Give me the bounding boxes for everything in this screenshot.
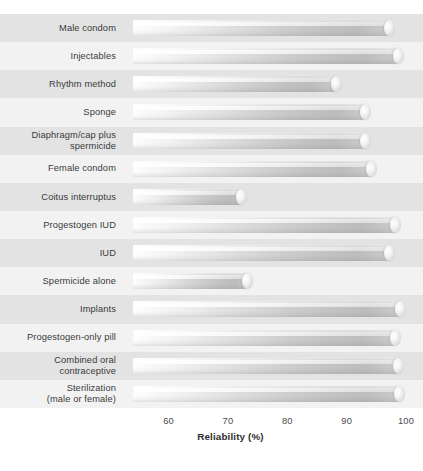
chart-row: Spermicide alone bbox=[0, 267, 423, 295]
bar-track bbox=[133, 42, 423, 70]
chart-row: Sponge bbox=[0, 98, 423, 126]
row-label: Sponge bbox=[0, 107, 125, 118]
row-label: Progestogen IUD bbox=[0, 220, 125, 231]
row-label: Spermicide alone bbox=[0, 276, 125, 287]
chart-row: Diaphragm/cap plus spermicide bbox=[0, 127, 423, 155]
row-label: Implants bbox=[0, 304, 125, 315]
bar bbox=[133, 245, 394, 261]
bar-track bbox=[133, 324, 423, 352]
bar-track bbox=[133, 380, 423, 408]
row-label: Progestogen-only pill bbox=[0, 332, 125, 343]
row-label: Combined oral contraceptive bbox=[0, 355, 125, 376]
bar bbox=[133, 301, 405, 317]
bar-track bbox=[133, 295, 423, 323]
bar bbox=[133, 161, 376, 177]
x-tick-label-90: 90 bbox=[341, 416, 352, 426]
chart-row: Male condom bbox=[0, 14, 423, 42]
row-label: IUD bbox=[0, 248, 125, 259]
bar-track bbox=[133, 155, 423, 183]
chart-row: IUD bbox=[0, 239, 423, 267]
bar bbox=[133, 189, 246, 205]
x-tick-label-70: 70 bbox=[223, 416, 234, 426]
x-axis-title-text: Reliability (%) bbox=[197, 431, 264, 442]
row-label: Diaphragm/cap plus spermicide bbox=[0, 130, 125, 151]
chart-row: Progestogen IUD bbox=[0, 211, 423, 239]
row-label: Rhythm method bbox=[0, 79, 125, 90]
bar-track bbox=[133, 98, 423, 126]
bar bbox=[133, 76, 341, 92]
x-tick-label-100: 100 bbox=[398, 416, 414, 426]
bar-track bbox=[133, 183, 423, 211]
bar-track bbox=[133, 239, 423, 267]
bar-track bbox=[133, 70, 423, 98]
chart-row: Implants bbox=[0, 295, 423, 323]
bar bbox=[133, 48, 403, 64]
row-label: Coitus interruptus bbox=[0, 192, 125, 203]
chart-row: Female condom bbox=[0, 155, 423, 183]
bar-track bbox=[133, 14, 423, 42]
bar bbox=[133, 133, 370, 149]
bar bbox=[133, 20, 394, 36]
bar-track bbox=[133, 352, 423, 380]
bar bbox=[133, 330, 400, 346]
row-label: Sterilization (male or female) bbox=[0, 383, 125, 404]
bar-track bbox=[133, 211, 423, 239]
x-tick-label-80: 80 bbox=[282, 416, 293, 426]
chart-row: Progestogen-only pill bbox=[0, 324, 423, 352]
x-axis-title: Reliability (%) bbox=[0, 431, 423, 442]
row-label: Male condom bbox=[0, 23, 125, 34]
bar-track bbox=[133, 267, 423, 295]
row-label: Injectables bbox=[0, 51, 125, 62]
bar bbox=[133, 104, 370, 120]
bar bbox=[133, 273, 252, 289]
chart-row: Injectables bbox=[0, 42, 423, 70]
bar bbox=[133, 358, 403, 374]
chart-row: Combined oral contraceptive bbox=[0, 352, 423, 380]
bar-track bbox=[133, 127, 423, 155]
chart-row: Rhythm method bbox=[0, 70, 423, 98]
chart-row: Coitus interruptus bbox=[0, 183, 423, 211]
chart-row: Sterilization (male or female) bbox=[0, 380, 423, 408]
chart-rows: Male condomInjectablesRhythm methodSpong… bbox=[0, 14, 423, 408]
bar bbox=[133, 386, 404, 402]
bar bbox=[133, 217, 400, 233]
row-label: Female condom bbox=[0, 163, 125, 174]
x-tick-label-60: 60 bbox=[163, 416, 174, 426]
reliability-bar-chart: Male condomInjectablesRhythm methodSpong… bbox=[0, 0, 423, 471]
